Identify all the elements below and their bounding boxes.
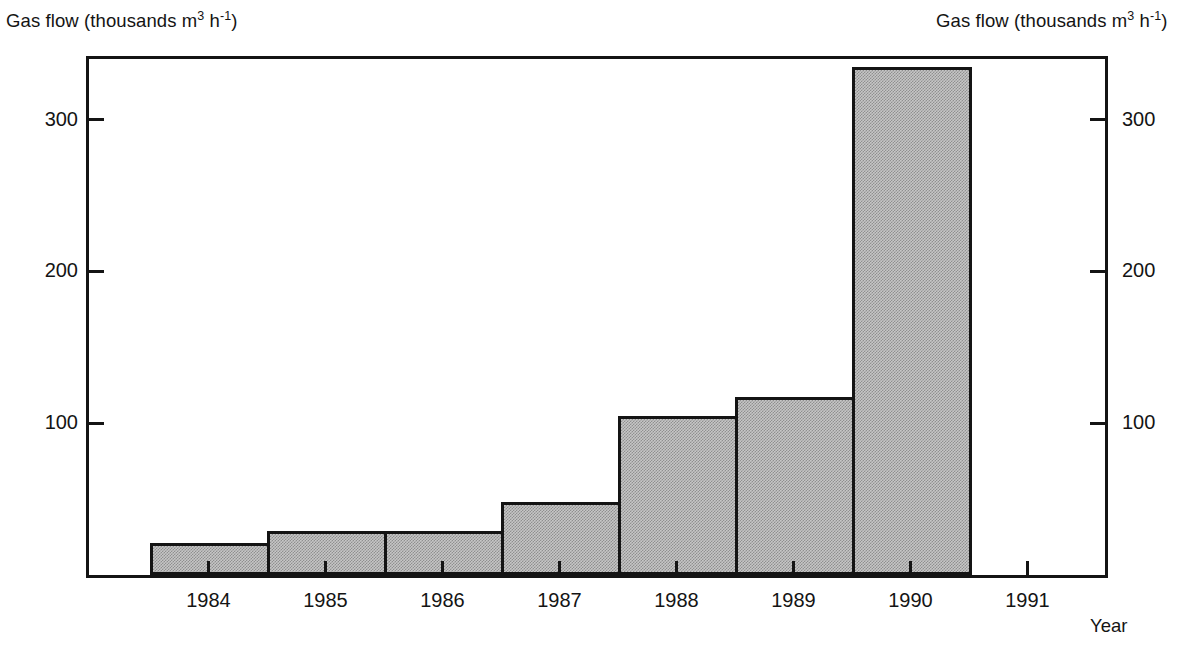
bar-1986[interactable] [384,531,504,575]
left-axis-title-prefix: Gas flow (thousands m [6,10,197,31]
x-tick-label-1984: 1984 [149,590,269,610]
x-tick-1987 [558,561,561,575]
y-tick-label-left-100: 100 [45,412,78,432]
x-tick-label-1988: 1988 [617,590,737,610]
bar-1988[interactable] [618,416,738,575]
right-axis-title: Gas flow (thousands m3 h-1) [936,12,1168,31]
right-axis-title-mid: h [1134,10,1150,31]
x-tick-1988 [675,561,678,575]
bar-1984[interactable] [150,543,270,575]
left-axis-title-mid: h [204,10,220,31]
x-tick-1986 [441,561,444,575]
plot-frame-top [86,56,1108,59]
x-axis-title: Year [1090,617,1127,636]
x-tick-label-1986: 1986 [383,590,503,610]
bar-1990[interactable] [852,67,972,575]
y-tick-left-300 [89,118,104,121]
x-tick-label-1987: 1987 [500,590,620,610]
plot-area [86,56,1108,578]
x-tick-label-1991: 1991 [968,590,1088,610]
x-tick-1989 [792,561,795,575]
bar-1987[interactable] [501,502,621,575]
bar-1985[interactable] [267,531,387,575]
x-tick-1984 [207,561,210,575]
left-axis-title: Gas flow (thousands m3 h-1) [6,12,238,31]
bar-1989[interactable] [735,397,855,575]
right-axis-title-suffix: ) [1161,10,1167,31]
x-tick-label-1990: 1990 [851,590,971,610]
x-tick-label-1985: 1985 [266,590,386,610]
y-tick-left-100 [89,422,104,425]
y-tick-right-200 [1090,270,1105,273]
y-axis-right [1105,56,1108,578]
y-axis-left [86,56,89,578]
y-tick-label-right-100: 100 [1122,412,1155,432]
y-tick-label-left-300: 300 [45,109,78,129]
x-tick-1990 [909,561,912,575]
chart-figure: Gas flow (thousands m3 h-1) Gas flow (th… [0,0,1200,648]
x-axis [86,575,1108,578]
y-tick-label-left-200: 200 [45,260,78,280]
y-tick-label-right-200: 200 [1122,260,1155,280]
x-tick-label-1989: 1989 [734,590,854,610]
x-tick-1985 [324,561,327,575]
right-axis-title-prefix: Gas flow (thousands m [936,10,1127,31]
left-axis-title-sup-inverse: -1 [220,9,231,23]
left-axis-title-suffix: ) [231,10,237,31]
y-tick-right-300 [1090,118,1105,121]
y-tick-right-100 [1090,422,1105,425]
right-axis-title-sup-inverse: -1 [1150,9,1161,23]
y-tick-left-200 [89,270,104,273]
y-tick-label-right-300: 300 [1122,109,1155,129]
x-tick-1991 [1026,561,1029,575]
